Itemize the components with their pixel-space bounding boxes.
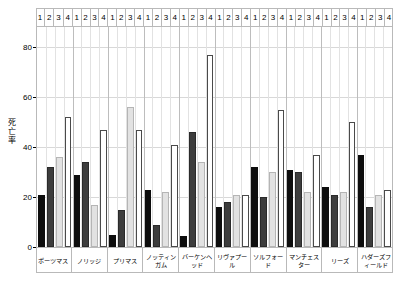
- series-header-cell: 1: [250, 8, 259, 26]
- y-tick-label-80: 80: [12, 43, 32, 52]
- bar: [74, 175, 81, 248]
- series-header-cell: 2: [152, 8, 161, 26]
- series-header-cell: 3: [197, 8, 206, 26]
- category-label-8: マンチェスター: [286, 248, 322, 273]
- bar: [189, 132, 196, 247]
- category-label-10: ハダーズフィールド: [357, 248, 393, 273]
- series-header-cell: 2: [295, 8, 304, 26]
- plot-area: [37, 27, 392, 247]
- category-label-6: リヴァプール: [214, 248, 250, 273]
- bar: [109, 235, 116, 248]
- y-tick-label-0: 0: [12, 243, 32, 252]
- y-tick-mark-20: [33, 197, 36, 198]
- series-header-cell: 4: [98, 8, 107, 26]
- series-header-cell: 4: [277, 8, 286, 26]
- series-header-cell: 2: [188, 8, 197, 26]
- bar: [242, 195, 249, 248]
- bar: [216, 207, 223, 247]
- bar: [287, 170, 294, 248]
- series-header-cell: 3: [53, 8, 62, 26]
- category-label-row: ポーツマスノリッジプリマスノッティンガムバーケンヘッドリヴァプールソルフォードマ…: [36, 247, 393, 273]
- series-header-cell: 3: [304, 8, 313, 26]
- bar: [322, 187, 329, 247]
- bar: [171, 145, 178, 248]
- bar: [304, 192, 311, 247]
- series-header-cell: 4: [384, 8, 393, 26]
- series-header-cell: 1: [72, 8, 81, 26]
- bar: [384, 190, 391, 248]
- bar: [56, 157, 63, 247]
- category-label-7: ソルフォード: [250, 248, 286, 273]
- series-header-cell: 3: [125, 8, 134, 26]
- series-header-cell: 1: [286, 8, 295, 26]
- series-header-cell: 4: [63, 8, 72, 26]
- bar: [82, 162, 89, 247]
- bar: [127, 107, 134, 247]
- group-header-9: 1234: [322, 8, 358, 26]
- y-tick-label-20: 20: [12, 193, 32, 202]
- bar: [224, 202, 231, 247]
- category-label-9: リーズ: [321, 248, 357, 273]
- series-header-cell: 2: [259, 8, 268, 26]
- y-axis-ticks: 020406080: [8, 0, 32, 282]
- y-tick-mark-0: [33, 247, 36, 248]
- series-header-cell: 4: [170, 8, 179, 26]
- series-header-cell: 2: [366, 8, 375, 26]
- group-header-2: 1234: [72, 8, 108, 26]
- group-header-3: 1234: [107, 8, 143, 26]
- bar: [233, 195, 240, 248]
- group-separator: [108, 27, 109, 247]
- series-header-cell: 2: [44, 8, 53, 26]
- bar: [145, 190, 152, 248]
- y-tick-mark-80: [33, 47, 36, 48]
- y-tick-mark-60: [33, 97, 36, 98]
- series-header-cell: 1: [36, 8, 44, 26]
- series-header-cell: 1: [215, 8, 224, 26]
- series-header-cell: 1: [179, 8, 188, 26]
- series-header-cell: 1: [357, 8, 366, 26]
- bar: [91, 205, 98, 248]
- series-header-cell: 4: [206, 8, 215, 26]
- series-header-cell: 1: [322, 8, 331, 26]
- group-header-7: 1234: [250, 8, 286, 26]
- bar: [340, 192, 347, 247]
- bar: [313, 155, 320, 248]
- series-header-cell: 3: [232, 8, 241, 26]
- group-header-8: 1234: [286, 8, 322, 26]
- bar: [47, 167, 54, 247]
- y-tick-label-60: 60: [12, 93, 32, 102]
- category-label-1: ポーツマス: [36, 248, 71, 273]
- bar: [260, 197, 267, 247]
- group-header-6: 1234: [215, 8, 251, 26]
- bar: [251, 167, 258, 247]
- series-header-cell: 3: [339, 8, 348, 26]
- bar: [375, 195, 382, 248]
- group-header-10: 1234: [357, 8, 393, 26]
- series-header-cell: 4: [348, 8, 357, 26]
- series-header-cell: 3: [161, 8, 170, 26]
- category-label-5: バーケンヘッド: [178, 248, 214, 273]
- series-header-cell: 4: [313, 8, 322, 26]
- series-header-cell: 2: [331, 8, 340, 26]
- series-header-cell: 3: [375, 8, 384, 26]
- series-header-cell: 2: [81, 8, 90, 26]
- bar: [162, 192, 169, 247]
- bar: [295, 172, 302, 247]
- bar: [349, 122, 356, 247]
- series-header-cell: 1: [143, 8, 152, 26]
- bar: [198, 162, 205, 247]
- bar: [331, 195, 338, 248]
- bar: [38, 195, 45, 248]
- y-tick-label-40: 40: [12, 143, 32, 152]
- series-header-cell: 1: [107, 8, 116, 26]
- bar: [366, 207, 373, 247]
- series-header-cell: 4: [241, 8, 250, 26]
- series-header-cell: 3: [90, 8, 99, 26]
- group-header-row: 1234123412341234123412341234123412341234: [36, 8, 393, 27]
- category-label-3: プリマス: [107, 248, 143, 273]
- group-separator: [179, 27, 180, 247]
- series-header-cell: 4: [134, 8, 143, 26]
- category-label-4: ノッティンガム: [142, 248, 178, 273]
- bar: [100, 130, 107, 248]
- bar: [153, 225, 160, 248]
